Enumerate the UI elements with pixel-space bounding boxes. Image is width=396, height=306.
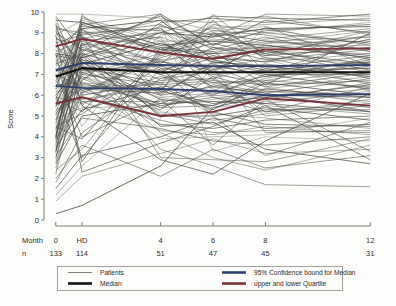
y-tick-label: 8 — [35, 49, 39, 58]
n-value: 51 — [156, 249, 164, 258]
y-tick-label: 10 — [31, 8, 39, 17]
y-tick-label: 5 — [35, 112, 39, 121]
n-value: 47 — [209, 249, 217, 258]
legend-label: Median — [100, 280, 122, 287]
x-tick-label: 0 — [54, 236, 58, 245]
y-tick-label: 4 — [35, 132, 39, 141]
x-tick-label: 6 — [211, 236, 215, 245]
x-tick-label: HD — [77, 236, 88, 245]
n-row-label: n — [22, 249, 26, 258]
chart-root: 012345678910 Score Month n 0HD46812 1331… — [0, 0, 396, 306]
n-value: 45 — [261, 249, 269, 258]
chart-legend: PatientsMedian95% Confidence bound for M… — [58, 267, 356, 291]
score-trajectory-chart: 012345678910 Score Month n 0HD46812 1331… — [0, 0, 396, 306]
legend-label: 95% Confidence bound for Median — [254, 269, 356, 276]
x-tick-label: 8 — [263, 236, 267, 245]
x-tick-label: 4 — [159, 236, 163, 245]
y-axis-title: Score — [6, 109, 15, 129]
x-tick-label: 12 — [366, 236, 374, 245]
month-row-label: Month — [22, 236, 43, 245]
y-tick-label: 0 — [35, 216, 39, 225]
y-tick-label: 9 — [35, 28, 39, 37]
n-value: 133 — [50, 249, 63, 258]
y-tick-label: 1 — [35, 195, 39, 204]
legend-label: Patients — [100, 269, 125, 276]
y-tick-label: 7 — [35, 70, 39, 79]
y-tick-label: 2 — [35, 174, 39, 183]
legend-label: upper and lower Quartile — [254, 280, 327, 288]
y-tick-label: 3 — [35, 153, 39, 162]
n-value: 31 — [366, 249, 374, 258]
n-value: 114 — [76, 249, 88, 258]
y-tick-label: 6 — [35, 91, 39, 100]
